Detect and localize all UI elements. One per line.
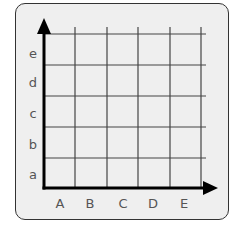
y-axis-labels: a b c d e: [29, 46, 37, 182]
x-label: B: [86, 196, 95, 211]
y-label: b: [29, 137, 37, 152]
coordinate-grid: A B C D E a b c d e: [0, 0, 245, 239]
axes: [37, 18, 218, 195]
x-axis-arrow-icon: [203, 181, 218, 195]
y-axis-arrow-icon: [37, 18, 51, 34]
x-label: C: [118, 196, 127, 211]
grid-lines: [44, 27, 206, 188]
x-label: D: [148, 196, 158, 211]
y-label: e: [29, 46, 37, 61]
x-label: A: [56, 196, 65, 211]
x-axis-labels: A B C D E: [56, 196, 189, 211]
y-label: a: [29, 167, 37, 182]
y-label: c: [29, 106, 36, 121]
y-label: d: [29, 75, 37, 90]
x-label: E: [180, 196, 188, 211]
